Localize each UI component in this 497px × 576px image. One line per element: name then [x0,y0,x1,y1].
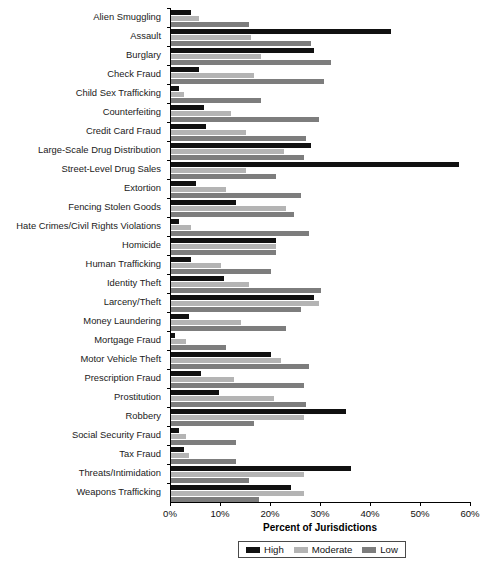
bar-group [171,352,471,368]
x-axis-tick-label: 40% [360,508,379,519]
category-tick [167,46,171,47]
bar-low [171,459,236,464]
bar-low [171,117,319,122]
bar-low [171,364,309,369]
bar-group [171,105,471,121]
category-label: Threats/Intimidation [79,468,161,478]
category-label: Money Laundering [83,316,161,326]
category-label: Human Trafficking [86,259,161,269]
category-tick [167,217,171,218]
category-tick [167,27,171,28]
bar-gap [171,91,471,92]
bar-group [171,466,471,482]
bar-gap [171,15,471,16]
bar-group [171,29,471,45]
category-tick [167,331,171,332]
bar-group [171,67,471,83]
bar-group [171,409,471,425]
category-label: Credit Card Fraud [86,126,161,136]
bar-low [171,307,301,312]
bar-chart: Alien SmugglingAssaultBurglaryCheck Frau… [0,0,497,576]
category-label: Motor Vehicle Theft [80,354,161,364]
x-axis-tick [220,502,221,506]
bar-low [171,269,271,274]
legend-label: High [264,544,284,555]
category-tick [167,274,171,275]
category-tick [167,84,171,85]
category-tick [167,8,171,9]
x-axis-tick-label: 10% [210,508,229,519]
bar-low [171,345,226,350]
category-label: Alien Smuggling [93,12,161,22]
x-axis-tick [270,502,271,506]
bar-group [171,257,471,273]
bar-group [171,238,471,254]
category-tick [167,65,171,66]
bar-gap [171,433,471,434]
bar-group [171,295,471,311]
bar-low [171,60,331,65]
legend-item-moderate: Moderate [294,544,353,555]
bar-low [171,250,276,255]
bar-group [171,200,471,216]
bar-group [171,124,471,140]
bar-group [171,162,471,178]
category-tick [167,426,171,427]
category-label: Weapons Trafficking [76,487,161,497]
category-label: Assault [130,31,161,41]
bar-low [171,155,304,160]
category-tick [167,388,171,389]
bar-group [171,219,471,235]
bar-low [171,98,261,103]
x-axis-tick [170,502,171,506]
category-label: Social Security Fraud [72,430,161,440]
x-axis: 0%10%20%30%40%50%60% [170,502,470,503]
legend-swatch-high [246,547,260,553]
category-label: Tax Fraud [119,449,161,459]
category-tick [167,255,171,256]
category-label: Counterfeiting [103,107,161,117]
category-label: Child Sex Trafficking [76,88,161,98]
bar-low [171,421,254,426]
category-label: Check Fraud [107,69,161,79]
plot-area [170,8,471,502]
bar-low [171,174,276,179]
bar-group [171,485,471,501]
bar-gap [171,224,471,225]
x-axis-tick [320,502,321,506]
bar-low [171,79,324,84]
category-label: Fencing Stolen Goods [68,202,161,212]
x-axis-tick [420,502,421,506]
bar-low [171,478,249,483]
bar-low [171,212,294,217]
category-tick [167,407,171,408]
category-tick [167,483,171,484]
bar-low [171,326,286,331]
x-axis-tick-label: 0% [163,508,177,519]
x-axis-title: Percent of Jurisdictions [170,522,470,533]
category-label: Extortion [124,183,161,193]
category-tick [167,179,171,180]
bar-low [171,136,306,141]
bar-group [171,371,471,387]
category-tick [167,293,171,294]
category-label: Prostitution [114,392,161,402]
legend-item-high: High [246,544,284,555]
category-label: Prescription Fraud [84,373,161,383]
category-tick [167,445,171,446]
category-tick [167,122,171,123]
bar-gap [171,452,471,453]
category-tick [167,103,171,104]
bar-group [171,276,471,292]
x-axis-tick [470,502,471,506]
x-axis-tick-label: 50% [410,508,429,519]
bar-gap [171,338,471,339]
bar-group [171,10,471,26]
category-tick [167,350,171,351]
bar-low [171,288,321,293]
category-label: Mortgage Fraud [94,335,161,345]
bar-low [171,497,259,502]
bar-low [171,22,249,27]
x-axis-tick-label: 30% [310,508,329,519]
category-tick [167,141,171,142]
